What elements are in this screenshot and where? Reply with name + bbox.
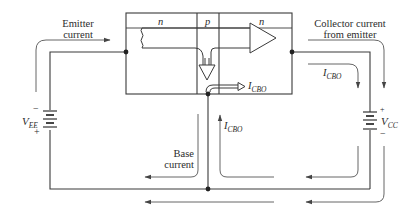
icbo-collector-label: ICBO bbox=[323, 67, 342, 82]
emitter-region-label: n bbox=[158, 16, 163, 27]
icbo-subscript: CBO bbox=[228, 125, 243, 134]
vcc-subscript: CC bbox=[388, 121, 398, 130]
emitter-current-line1: Emitter bbox=[56, 18, 100, 29]
collector-current-line1: Collector current bbox=[300, 18, 400, 29]
collector-current-line2: from emitter bbox=[300, 29, 400, 40]
base-region-label: p bbox=[205, 16, 210, 27]
vcc-battery-icon bbox=[363, 112, 377, 129]
icbo-subscript: CBO bbox=[252, 85, 267, 94]
collector-region-label: n bbox=[259, 16, 264, 27]
vcc-plus-sign: + bbox=[380, 105, 385, 115]
icbo-internal-arrow bbox=[206, 83, 245, 93]
vcc-symbol: V bbox=[381, 115, 388, 127]
collector-current-label: Collector current from emitter bbox=[300, 18, 400, 40]
emitter-current-line2: current bbox=[56, 29, 100, 40]
base-current-label: Base current bbox=[164, 148, 194, 170]
base-current-line2: current bbox=[164, 159, 194, 170]
collector-return-arrow bbox=[306, 146, 358, 177]
icbo-base-label: ICBO bbox=[224, 120, 243, 135]
emitter-current-label: Emitter current bbox=[56, 18, 100, 40]
icbo-internal-label: ICBO bbox=[248, 80, 267, 95]
vcc-minus-sign: − bbox=[380, 129, 386, 139]
vee-plus-sign: + bbox=[34, 127, 40, 137]
icbo-subscript: CBO bbox=[327, 72, 342, 81]
emitter-collector-flow-arrow bbox=[141, 23, 276, 80]
vee-symbol: V bbox=[22, 115, 29, 127]
bottom-return-arrow-right bbox=[306, 146, 384, 202]
vee-minus-sign: − bbox=[33, 104, 39, 114]
current-flow-arrows bbox=[36, 40, 384, 202]
emitter-current-arrow bbox=[36, 40, 110, 92]
vee-battery-icon bbox=[43, 111, 57, 127]
base-current-line1: Base bbox=[164, 148, 194, 159]
